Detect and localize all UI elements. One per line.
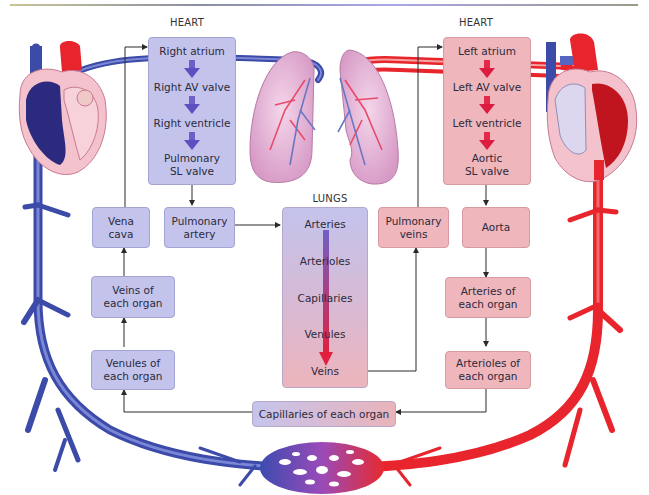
pulmonary-artery-label-1: Pulmonary — [172, 215, 228, 228]
right-atrium-label: Right atrium — [159, 44, 225, 58]
heart-left-label: HEART — [446, 17, 506, 28]
venules-of-each-organ-box: Venules of each organ — [91, 350, 175, 390]
circulatory-diagram: HEART HEART LUNGS Right atrium Right AV … — [0, 0, 649, 495]
vena-cava-label-1: Vena — [108, 215, 134, 228]
left-heart-box: Left atrium Left AV valve Left ventricle… — [443, 37, 531, 185]
pulmonary-veins-box: Pulmonary veins — [378, 207, 449, 248]
down-arrow-icon — [479, 96, 495, 114]
pulmonary-veins-label-1: Pulmonary — [386, 215, 442, 228]
capillaries-of-each-organ-box: Capillaries of each organ — [252, 401, 396, 427]
lungs-venules: Venules — [283, 328, 367, 341]
down-arrow-icon — [479, 132, 495, 150]
left-av-valve-label: Left AV valve — [453, 80, 521, 94]
capillary-bed — [260, 442, 384, 494]
pulmonary-sl-valve-label-1: Pulmonary — [164, 152, 220, 165]
pulmonary-artery-box: Pulmonary artery — [164, 207, 235, 248]
lungs-box: Arteries Arterioles Capillaries Venules … — [282, 207, 368, 388]
arteries-of-organ-label-1: Arteries of — [461, 285, 516, 298]
aortic-sl-valve-label-2: SL valve — [465, 165, 509, 178]
lungs-capillaries: Capillaries — [283, 292, 367, 305]
veins-of-organ-label-2: each organ — [104, 297, 163, 310]
veins-of-each-organ-box: Veins of each organ — [91, 276, 175, 318]
left-atrium-label: Left atrium — [458, 44, 516, 58]
arteries-of-each-organ-box: Arteries of each organ — [445, 277, 531, 318]
pulmonary-sl-valve-label-2: SL valve — [170, 165, 214, 178]
venules-of-organ-label-2: each organ — [104, 370, 163, 383]
aortic-sl-valve-label-1: Aortic — [472, 152, 503, 165]
lungs-arterioles: Arterioles — [283, 255, 367, 268]
vena-cava-label-2: cava — [109, 228, 134, 241]
capillaries-of-organ-label: Capillaries of each organ — [259, 408, 390, 421]
heart-illustration-right — [546, 34, 637, 182]
right-heart-box: Right atrium Right AV valve Right ventri… — [148, 37, 236, 185]
aorta-box: Aorta — [462, 207, 530, 248]
lungs-arteries: Arteries — [283, 218, 367, 231]
down-arrow-icon — [184, 132, 200, 150]
pulmonary-veins-label-2: veins — [400, 228, 428, 241]
venules-of-organ-label-1: Venules of — [106, 357, 160, 370]
lungs-illustration — [250, 50, 398, 184]
arteries-of-organ-label-2: each organ — [459, 298, 518, 311]
vena-cava-box: Vena cava — [92, 207, 150, 248]
arterioles-of-organ-label-1: Arterioles of — [456, 357, 520, 370]
heart-illustration-left — [19, 41, 106, 175]
heart-right-label: HEART — [157, 17, 217, 28]
arterioles-of-organ-label-2: each organ — [459, 370, 518, 383]
right-av-valve-label: Right AV valve — [154, 80, 230, 94]
arterioles-of-each-organ-box: Arterioles of each organ — [445, 351, 531, 389]
pulmonary-artery-label-2: artery — [184, 228, 216, 241]
lungs-veins: Veins — [283, 365, 367, 378]
lungs-label: LUNGS — [305, 193, 355, 204]
down-arrow-icon — [184, 60, 200, 78]
down-arrow-icon — [184, 96, 200, 114]
left-ventricle-label: Left ventricle — [453, 116, 522, 130]
down-arrow-icon — [479, 60, 495, 78]
aorta-label: Aorta — [482, 221, 510, 234]
veins-of-organ-label-1: Veins of — [112, 284, 153, 297]
right-ventricle-label: Right ventricle — [154, 116, 231, 130]
